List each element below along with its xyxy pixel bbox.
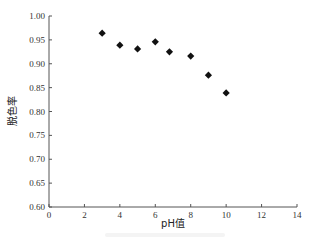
x-tick-label: 10 <box>222 210 232 220</box>
data-point-diamond <box>187 53 194 60</box>
data-point-diamond <box>99 30 106 37</box>
x-tick-label: 4 <box>118 210 123 220</box>
data-points <box>99 30 230 97</box>
y-tick-label: 0.65 <box>29 178 45 188</box>
x-tick-label: 0 <box>47 210 52 220</box>
figure-caption-faded <box>105 233 225 237</box>
data-point-diamond <box>166 48 173 55</box>
y-tick-label: 0.95 <box>29 35 45 45</box>
axes <box>49 16 297 207</box>
y-tick-label: 0.90 <box>29 59 45 69</box>
x-tick-label: 2 <box>82 210 87 220</box>
data-point-diamond <box>152 38 159 45</box>
x-tick-label: 14 <box>293 210 303 220</box>
scatter-chart: 0.600.650.700.750.800.850.900.951.00 024… <box>0 0 314 244</box>
data-point-diamond <box>205 72 212 79</box>
data-point-diamond <box>116 42 123 49</box>
y-tick-label: 0.75 <box>29 130 45 140</box>
y-axis-label: 脱色率 <box>6 96 18 126</box>
data-point-diamond <box>134 45 141 52</box>
x-tick-label: 12 <box>257 210 266 220</box>
x-axis-label: pH值 <box>161 217 185 229</box>
data-point-diamond <box>223 89 230 96</box>
y-tick-label: 0.80 <box>29 107 45 117</box>
x-tick-label: 6 <box>153 210 158 220</box>
y-tick-label: 0.70 <box>29 154 45 164</box>
x-tick-label: 8 <box>188 210 193 220</box>
y-tick-label: 0.85 <box>29 83 45 93</box>
y-tick-label: 1.00 <box>29 11 45 21</box>
y-tick-label: 0.60 <box>29 202 45 212</box>
